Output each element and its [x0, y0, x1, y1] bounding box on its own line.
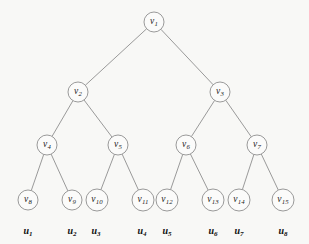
tree-node-label-v7: v7 — [253, 140, 261, 150]
leaf-label-u3: u3 — [91, 226, 100, 236]
tree-node-label-v2: v2 — [74, 87, 82, 97]
tree-edge-v3-v7 — [226, 100, 252, 137]
tree-edge-v2-v4 — [52, 101, 73, 137]
tree-node-label-v10: v10 — [91, 195, 102, 205]
node-label-subscript: 12 — [166, 198, 173, 205]
leaf-label-subscript: 4 — [143, 230, 147, 238]
node-label-base: v — [138, 194, 142, 204]
leaf-label-u7: u7 — [234, 226, 243, 236]
node-label-subscript: 13 — [212, 198, 219, 205]
node-label-base: v — [216, 86, 220, 96]
node-label-base: v — [43, 139, 47, 149]
leaf-label-subscript: 5 — [168, 230, 172, 238]
leaf-label-u1: u1 — [23, 226, 32, 236]
node-label-base: v — [150, 16, 154, 26]
leaf-label-base: u — [234, 225, 240, 236]
tree-node-label-v8: v8 — [24, 195, 32, 205]
node-label-subscript: 7 — [258, 143, 262, 150]
tree-edge-v4-v9 — [51, 154, 68, 191]
tree-edge-v1-v3 — [161, 29, 213, 84]
leaf-label-u8: u8 — [278, 226, 287, 236]
leaf-label-base: u — [91, 225, 97, 236]
node-label-subscript: 15 — [282, 198, 289, 205]
leaf-label-base: u — [67, 225, 73, 236]
node-label-base: v — [207, 194, 211, 204]
tree-node-label-v4: v4 — [43, 140, 51, 150]
node-label-subscript: 8 — [29, 198, 33, 205]
node-label-subscript: 3 — [221, 90, 225, 97]
node-label-subscript: 9 — [73, 198, 77, 205]
tree-node-label-v3: v3 — [216, 87, 224, 97]
node-label-subscript: 5 — [119, 143, 123, 150]
node-label-base: v — [68, 194, 72, 204]
leaf-label-u6: u6 — [208, 226, 217, 236]
node-label-base: v — [114, 139, 118, 149]
leaf-label-subscript: 3 — [97, 230, 101, 238]
tree-edge-v7-v14 — [242, 155, 253, 190]
leaf-label-u5: u5 — [162, 226, 171, 236]
tree-edge-v5-v11 — [122, 154, 138, 190]
node-label-subscript: 6 — [187, 143, 191, 150]
node-label-base: v — [91, 194, 95, 204]
node-label-base: v — [277, 194, 281, 204]
leaf-label-subscript: 6 — [214, 230, 218, 238]
node-label-base: v — [161, 194, 165, 204]
leaf-label-subscript: 7 — [240, 230, 244, 238]
node-label-base: v — [233, 194, 237, 204]
node-label-base: v — [74, 86, 78, 96]
tree-node-label-v5: v5 — [114, 140, 122, 150]
node-label-subscript: 14 — [238, 198, 245, 205]
tree-edge-v4-v8 — [31, 154, 43, 190]
node-label-base: v — [24, 194, 28, 204]
tree-node-label-v15: v15 — [277, 195, 288, 205]
binary-tree-diagram: v1v2v3v4v5v6v7v8v9v10v11v12v13v14v15 u1u… — [0, 0, 309, 244]
node-label-base: v — [182, 139, 186, 149]
tree-edge-v1-v2 — [85, 29, 146, 85]
node-label-base: v — [253, 139, 257, 149]
leaf-label-subscript: 2 — [73, 230, 77, 238]
leaf-label-base: u — [162, 225, 168, 236]
tree-node-label-v14: v14 — [233, 195, 244, 205]
leaf-label-subscript: 8 — [284, 230, 288, 238]
tree-node-label-v1: v1 — [150, 17, 158, 27]
node-label-subscript: 1 — [155, 20, 159, 27]
node-label-subscript: 2 — [79, 90, 83, 97]
leaf-label-base: u — [137, 225, 143, 236]
tree-edge-v2-v5 — [84, 100, 112, 137]
tree-node-label-v6: v6 — [182, 140, 190, 150]
tree-node-label-v11: v11 — [138, 195, 149, 205]
leaf-label-subscript: 1 — [29, 230, 33, 238]
edge-layer — [31, 29, 278, 191]
tree-graphics — [0, 0, 309, 244]
leaf-label-base: u — [278, 225, 284, 236]
tree-node-label-v9: v9 — [68, 195, 76, 205]
leaf-label-u4: u4 — [137, 226, 146, 236]
node-label-subscript: 11 — [142, 198, 149, 205]
tree-edge-v5-v10 — [101, 154, 115, 189]
leaf-label-u2: u2 — [67, 226, 76, 236]
tree-edge-v6-v13 — [190, 154, 208, 190]
tree-node-label-v13: v13 — [207, 195, 218, 205]
node-label-subscript: 4 — [48, 143, 52, 150]
tree-edge-v3-v6 — [191, 100, 214, 136]
tree-node-label-v12: v12 — [161, 195, 172, 205]
tree-edge-v6-v12 — [171, 154, 183, 189]
node-layer — [18, 12, 294, 211]
leaf-label-base: u — [208, 225, 214, 236]
node-label-subscript: 10 — [96, 198, 103, 205]
leaf-label-base: u — [23, 225, 29, 236]
tree-edge-v7-v15 — [261, 154, 278, 190]
